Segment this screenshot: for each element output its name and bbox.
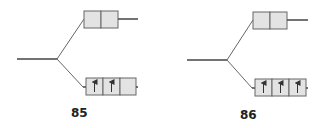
orbital-splitting-diagrams (0, 0, 321, 128)
diagram-label-85: 85 (71, 106, 88, 120)
branch-lower (227, 60, 252, 88)
diagram-85 (17, 11, 138, 95)
branch-lower (57, 59, 83, 87)
upper-orbital-boxes (84, 11, 118, 28)
branch-upper (227, 20, 253, 60)
diagram-86 (187, 12, 308, 96)
diagram-label-86: 86 (240, 108, 257, 122)
branch-upper (57, 19, 84, 59)
upper-orbital-boxes (253, 12, 287, 29)
lower-orbital-boxes (86, 78, 136, 95)
lower-orbital-boxes (255, 79, 306, 96)
